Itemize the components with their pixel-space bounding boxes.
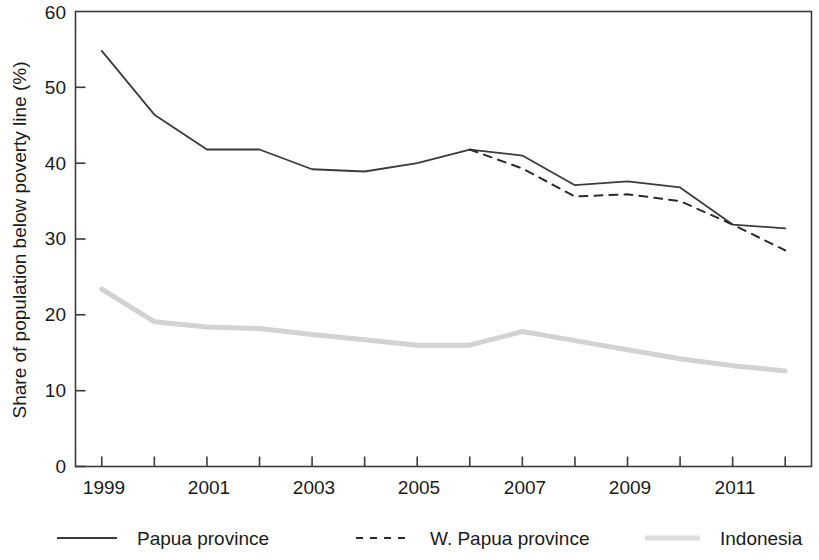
y-tick-label-50: 50: [45, 77, 66, 98]
x-tick-label-2011: 2011: [715, 477, 756, 498]
y-axis-title-text: Share of population below poverty line (…: [9, 62, 30, 419]
x-tick-label-2005: 2005: [398, 477, 440, 498]
x-tick-label-2001: 2001: [188, 477, 230, 498]
chart-legend: Papua province W. Papua province Indones…: [57, 528, 803, 549]
y-tickmarks: [76, 87, 86, 466]
y-tick-label-0: 0: [55, 456, 66, 477]
legend-label-w-papua-province: W. Papua province: [430, 528, 589, 549]
data-series: [102, 51, 785, 371]
y-tick-labels: 0 10 20 30 40 50 60: [45, 2, 66, 477]
series-line-indonesia: [102, 289, 785, 371]
series-line-w-papua-province: [470, 150, 785, 251]
y-tick-label-30: 30: [45, 228, 66, 249]
series-line-papua-province: [102, 51, 785, 228]
x-tick-label-2003: 2003: [293, 477, 335, 498]
y-tick-label-10: 10: [45, 380, 66, 401]
x-tick-label-1999: 1999: [83, 477, 125, 498]
x-tick-label-2009: 2009: [609, 477, 651, 498]
x-tickmarks: [102, 457, 785, 467]
legend-label-papua-province: Papua province: [137, 528, 269, 549]
y-tick-label-20: 20: [45, 304, 66, 325]
y-axis-title: Share of population below poverty line (…: [9, 62, 30, 419]
legend-label-indonesia: Indonesia: [720, 528, 803, 549]
plot-frame: [76, 12, 812, 467]
y-tick-label-60: 60: [45, 2, 66, 23]
x-tick-labels: 1999 2001 2003 2005 2007 2009 2011: [83, 477, 756, 498]
poverty-line-chart: Share of population below poverty line (…: [0, 0, 819, 560]
y-tick-label-40: 40: [45, 153, 66, 174]
x-tick-label-2007: 2007: [504, 477, 546, 498]
